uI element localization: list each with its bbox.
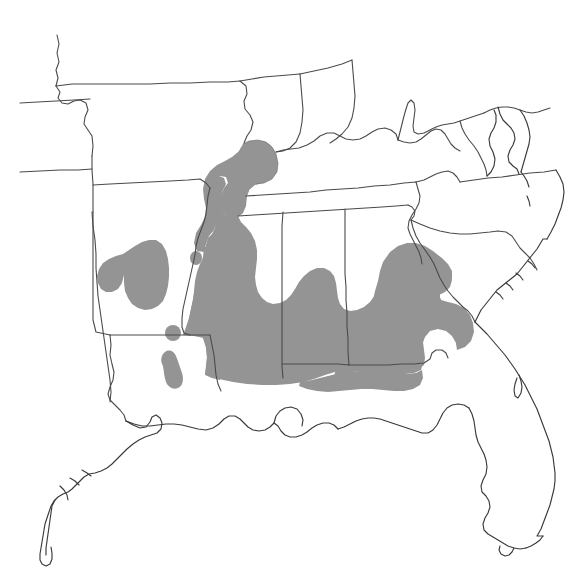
range-map-figure [0,0,577,582]
range-isolate-arkansas [190,251,202,265]
map-background [0,0,577,582]
map-canvas [0,0,577,582]
range-isolate-louisiana-north [165,325,181,341]
